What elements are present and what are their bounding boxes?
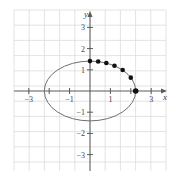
- y-tick-label: 2: [81, 45, 85, 54]
- data-point: [112, 63, 117, 68]
- data-point: [129, 75, 134, 80]
- x-tick-label: −1: [65, 95, 74, 104]
- data-point: [96, 59, 101, 64]
- x-tick-label: 1: [108, 95, 112, 104]
- data-point: [120, 68, 125, 73]
- ellipse-plot: −3−113−3−2−1123 x y: [0, 0, 176, 178]
- x-tick-label: 3: [149, 95, 153, 104]
- y-tick-label: −3: [76, 151, 85, 160]
- y-tick-label: 1: [81, 66, 85, 75]
- data-point: [88, 59, 93, 64]
- data-point: [133, 88, 139, 94]
- y-axis-label: y: [83, 9, 88, 19]
- y-tick-label: −1: [76, 108, 85, 117]
- y-tick-label: 3: [81, 23, 85, 32]
- x-axis-label: x: [162, 92, 167, 102]
- y-tick-label: −2: [76, 129, 85, 138]
- data-point: [104, 61, 109, 66]
- x-tick-label: −3: [25, 95, 34, 104]
